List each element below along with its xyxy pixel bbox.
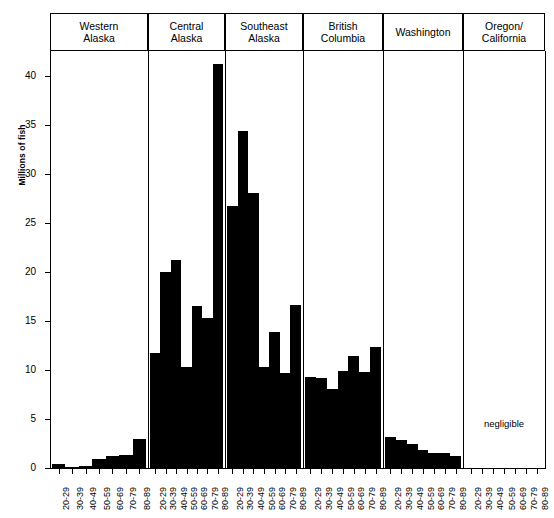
bar <box>227 206 238 468</box>
x-axis-tick-mark <box>376 469 377 474</box>
x-axis-tick-mark <box>166 469 167 474</box>
y-axis-label: Millions of fish <box>17 95 27 215</box>
x-axis-tick-mark <box>401 469 402 474</box>
x-axis-tick-label: 30-39 <box>76 487 85 510</box>
y-axis-tick-label: 20 <box>12 267 36 277</box>
x-axis-tick-mark <box>504 469 505 474</box>
panel-header-line1: Western <box>80 20 119 32</box>
x-axis-tick-mark <box>423 469 424 474</box>
panel-header-washington: Washington <box>383 13 463 51</box>
bar <box>327 389 338 468</box>
panel-separator <box>463 51 464 468</box>
bar <box>150 353 160 468</box>
bar <box>259 367 270 468</box>
bar <box>92 459 105 468</box>
panel-header-line2: Alaska <box>80 32 119 44</box>
x-axis-tick-label: 70-79 <box>289 487 298 510</box>
x-axis-tick-label: 50-59 <box>347 487 356 510</box>
bar <box>316 378 327 468</box>
x-axis-tick-mark <box>390 469 391 474</box>
x-axis-tick-mark <box>296 469 297 474</box>
y-axis-tick-label: 10 <box>12 365 36 375</box>
x-axis-tick-label: 20-29 <box>159 487 168 510</box>
bar <box>213 64 223 468</box>
x-axis-tick-mark <box>493 469 494 474</box>
bar <box>407 444 418 468</box>
x-axis-tick-label: 20-29 <box>62 487 71 510</box>
x-axis-tick-mark <box>456 469 457 474</box>
x-axis-tick-mark <box>139 469 140 474</box>
x-axis-tick-mark <box>72 469 73 474</box>
x-axis-tick-label: 80-89 <box>379 487 388 510</box>
x-axis-tick-mark <box>99 469 100 474</box>
x-axis-tick-mark <box>155 469 156 474</box>
x-axis-tick-mark <box>187 469 188 474</box>
panel-separator <box>225 51 226 468</box>
bar <box>52 464 65 468</box>
panel-header-line2: Alaska <box>240 32 287 44</box>
bar <box>450 456 461 468</box>
x-axis-tick-label: 80-89 <box>459 487 468 510</box>
panel-header-western: WesternAlaska <box>50 13 148 51</box>
x-axis-tick-label: 60-69 <box>519 487 528 510</box>
y-axis-line <box>50 51 51 469</box>
bar <box>418 450 429 468</box>
x-axis-tick-label: 80-89 <box>221 487 230 510</box>
panel-header-oregon: Oregon/California <box>463 13 545 51</box>
x-axis-tick-label: 20-29 <box>474 487 483 510</box>
x-axis-tick-label: 70-79 <box>211 487 220 510</box>
bar <box>359 372 370 468</box>
x-axis-tick-label: 40-49 <box>257 487 266 510</box>
x-axis-tick-label: 20-29 <box>236 487 245 510</box>
panel-separator <box>148 51 149 468</box>
x-axis-tick-mark <box>537 469 538 474</box>
y-axis-tick-label: 0 <box>12 463 36 473</box>
panel-header-central: CentralAlaska <box>148 13 225 51</box>
bar <box>160 272 170 468</box>
x-axis-tick-mark <box>197 469 198 474</box>
x-axis-tick-mark <box>412 469 413 474</box>
bar <box>248 193 259 468</box>
bar <box>202 318 212 468</box>
panel-header-line2: Alaska <box>170 32 204 44</box>
x-axis-tick-label: 70-79 <box>530 487 539 510</box>
panel-header-line1: Central <box>170 20 204 32</box>
x-axis-tick-label: 30-39 <box>169 487 178 510</box>
x-axis-tick-label: 20-29 <box>314 487 323 510</box>
x-axis-tick-mark <box>365 469 366 474</box>
x-axis-tick-mark <box>126 469 127 474</box>
bar <box>133 439 146 468</box>
x-axis-tick-label: 50-59 <box>190 487 199 510</box>
panel-header-british: BritishColumbia <box>303 13 383 51</box>
y-axis-tick-label: 40 <box>12 71 36 81</box>
x-axis-tick-label: 70-79 <box>368 487 377 510</box>
bar <box>79 466 92 468</box>
x-axis-tick-mark <box>86 469 87 474</box>
x-axis-tick-label: 60-69 <box>357 487 366 510</box>
x-axis-tick-mark <box>321 469 322 474</box>
x-axis-tick-label: 30-39 <box>325 487 334 510</box>
bar <box>106 456 119 468</box>
panel-header-line1: Southeast <box>240 20 287 32</box>
panel-note: negligible <box>463 418 545 429</box>
bar <box>290 305 301 468</box>
panel-header-line2: California <box>482 32 526 44</box>
x-axis-tick-label: 40-49 <box>89 487 98 510</box>
x-axis-tick-mark <box>207 469 208 474</box>
panel-separator <box>303 51 304 468</box>
x-axis-tick-mark <box>232 469 233 474</box>
x-axis-tick-mark <box>243 469 244 474</box>
y-axis-tick-label: 30 <box>12 169 36 179</box>
x-axis-tick-label: 50-59 <box>427 487 436 510</box>
bar <box>269 332 280 468</box>
panel-header-line1: Washington <box>395 26 450 38</box>
y-axis-tick-label: 25 <box>12 218 36 228</box>
y-axis-tick-label: 15 <box>12 316 36 326</box>
x-axis-tick-mark <box>264 469 265 474</box>
panel-header-southeast: SoutheastAlaska <box>225 13 303 51</box>
bar <box>192 306 202 468</box>
x-axis-tick-label: 50-59 <box>268 487 277 510</box>
x-axis-tick-mark <box>471 469 472 474</box>
x-axis-tick-mark <box>218 469 219 474</box>
x-axis-tick-label: 40-49 <box>416 487 425 510</box>
